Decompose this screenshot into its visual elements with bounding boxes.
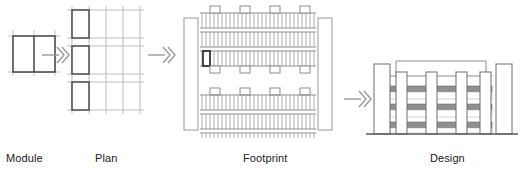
footprint-modules-band-1 — [202, 13, 314, 28]
footprint-core-left — [184, 18, 198, 130]
footprint-drawing — [182, 2, 334, 138]
plan-row-1 — [67, 6, 144, 42]
arrow-plan-to-footprint — [148, 44, 178, 66]
stage-footprint — [182, 2, 334, 138]
plan-row-2 — [67, 41, 144, 78]
design-tower-1 — [374, 64, 390, 134]
design-tower-4 — [456, 72, 467, 134]
diagram-canvas: Module Plan Footprint Design — [0, 0, 523, 176]
footprint-modules-band-2 — [202, 32, 314, 47]
design-tower-5 — [480, 72, 491, 134]
footprint-highlighted-module — [203, 51, 210, 66]
design-tower-2 — [396, 72, 407, 134]
label-footprint: Footprint — [243, 152, 287, 164]
plan-drawing — [66, 4, 144, 116]
footprint-core-right — [318, 18, 332, 130]
design-drawing — [366, 54, 518, 140]
label-module: Module — [6, 152, 43, 164]
plan-highlighted-module — [72, 10, 89, 38]
footprint-modules-band-6 — [202, 133, 314, 138]
plan-highlighted-module — [72, 46, 89, 74]
plan-row-3 — [67, 77, 144, 114]
label-plan: Plan — [95, 152, 117, 164]
footprint-core-squares-top — [210, 6, 310, 13]
design-tower-6 — [496, 64, 512, 134]
footprint-core-squares-mid-upper — [210, 66, 310, 73]
footprint-core-squares-mid-lower — [210, 88, 310, 95]
design-tower-3 — [426, 72, 437, 134]
label-design: Design — [430, 152, 465, 164]
stage-plan — [66, 4, 144, 116]
footprint-modules-band-3 — [202, 51, 314, 66]
footprint-band-group-top — [200, 6, 316, 73]
stage-design — [366, 54, 518, 140]
footprint-band-group-bottom — [200, 88, 316, 138]
footprint-modules-band-4 — [202, 95, 314, 110]
footprint-modules-band-5 — [202, 114, 314, 129]
plan-highlighted-module — [72, 82, 89, 110]
